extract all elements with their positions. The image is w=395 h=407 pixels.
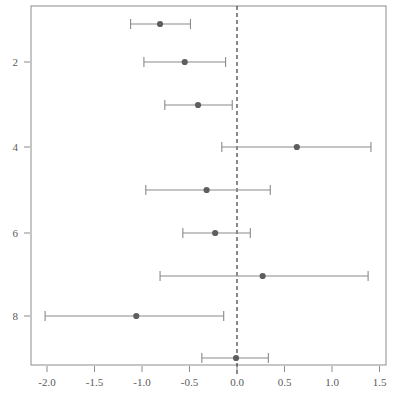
x-axis-tick-label: -0.5 <box>181 376 199 388</box>
forest-plot-svg: -2.0-1.5-1.0-0.50.00.51.01.5 2468 <box>0 0 395 407</box>
x-axis-tick-label: 0.0 <box>230 376 244 388</box>
y-axis-tick-label: 4 <box>13 141 19 153</box>
estimate-point <box>133 313 139 319</box>
x-axis-tick-label: -2.0 <box>38 376 56 388</box>
x-axis-tick-label: 1.0 <box>325 376 339 388</box>
x-axis-tick-label: 1.5 <box>373 376 387 388</box>
estimate-point <box>294 144 300 150</box>
estimate-point <box>204 187 210 193</box>
estimate-point <box>260 273 266 279</box>
estimate-point <box>157 21 163 27</box>
x-axis-tick-label: -1.0 <box>133 376 151 388</box>
x-axis-tick-label: 0.5 <box>278 376 292 388</box>
estimate-point <box>233 355 239 361</box>
y-axis-tick-label: 8 <box>13 310 19 322</box>
estimate-point <box>212 230 218 236</box>
forest-plot-chart: -2.0-1.5-1.0-0.50.00.51.01.5 2468 <box>0 0 395 407</box>
y-axis-tick-label: 2 <box>13 56 19 68</box>
y-axis-tick-label: 6 <box>13 227 19 239</box>
chart-background <box>0 0 395 407</box>
estimate-point <box>195 102 201 108</box>
estimate-point <box>182 59 188 65</box>
x-axis-tick-label: -1.5 <box>86 376 104 388</box>
